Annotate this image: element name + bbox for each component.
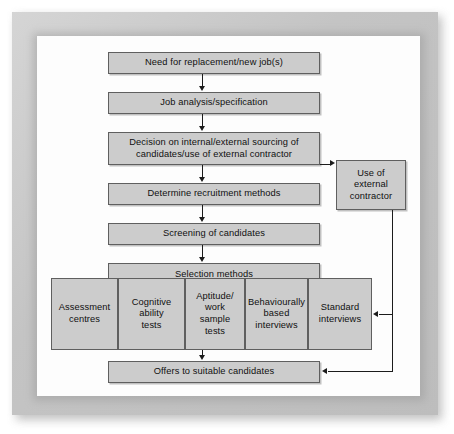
arrowhead-contractor-to-standard-interviews <box>373 311 378 317</box>
diagram-stage: Need for replacement/new job(s) Job anal… <box>0 0 454 434</box>
arrowhead-contractor-to-offers <box>322 368 327 374</box>
arrowhead-analysis-to-decision <box>199 126 205 131</box>
connector-contractor-trunk <box>392 210 393 371</box>
arrowhead-decision-to-methods <box>199 177 205 182</box>
flow-node-recruitment-methods[interactable]: Determine recruitment methods <box>108 183 320 205</box>
flow-node-decision[interactable]: Decision on internal/external sourcing o… <box>108 132 320 165</box>
selection-method-aptitude-work-sample[interactable]: Aptitude/ work sample tests <box>185 278 245 350</box>
arrowhead-need-to-analysis <box>199 86 205 91</box>
selection-method-cognitive-ability[interactable]: Cognitive ability tests <box>118 278 185 350</box>
selection-method-standard-interviews[interactable]: Standard interviews <box>308 278 372 350</box>
arrowhead-screening-to-selection <box>199 257 205 262</box>
arrowhead-selection-to-offers <box>199 355 205 360</box>
flow-node-offers[interactable]: Offers to suitable candidates <box>108 361 320 383</box>
flow-node-use-of-external-contractor[interactable]: Use of external contractor <box>336 160 406 210</box>
selection-method-behaviourally-based[interactable]: Behaviourally based interviews <box>245 278 308 350</box>
arrowhead-methods-to-screening <box>199 217 205 222</box>
diagram-canvas: Need for replacement/new job(s) Job anal… <box>37 36 420 396</box>
connector-contractor-to-offers <box>328 371 393 372</box>
flow-node-screening[interactable]: Screening of candidates <box>108 223 320 245</box>
connector-contractor-to-standard-interviews <box>379 314 393 315</box>
flow-node-need[interactable]: Need for replacement/new job(s) <box>108 52 320 74</box>
flow-node-job-analysis[interactable]: Job analysis/specification <box>108 92 320 114</box>
arrowhead-decision-to-contractor <box>330 160 335 166</box>
selection-method-assessment-centres[interactable]: Assessment centres <box>51 278 118 350</box>
